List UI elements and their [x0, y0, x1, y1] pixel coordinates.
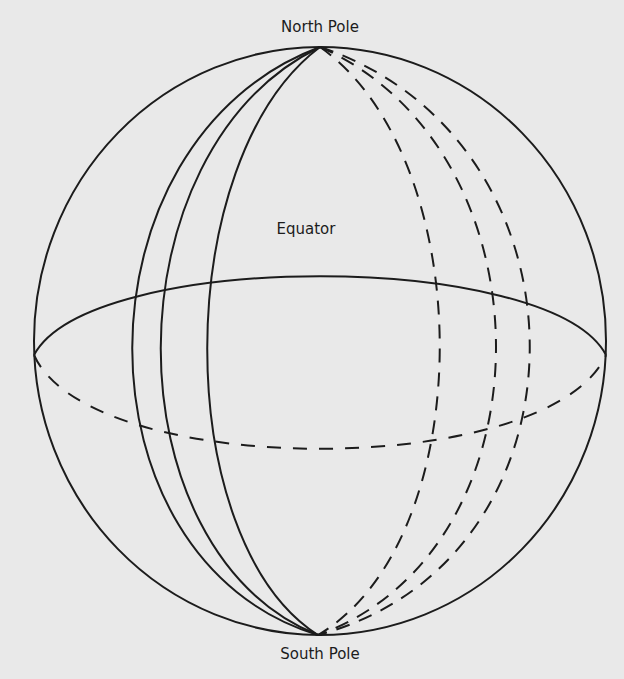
equator-back	[34, 355, 606, 449]
south-pole-label: South Pole	[280, 645, 359, 663]
equator-front	[34, 276, 606, 355]
meridian-solid-3	[207, 47, 320, 635]
meridian-dashed-3	[318, 47, 530, 635]
sphere-outline	[34, 47, 606, 635]
north-pole-label: North Pole	[281, 18, 359, 36]
meridian-dashed-2	[318, 47, 496, 635]
globe-drawing	[0, 0, 624, 679]
equator-label: Equator	[277, 220, 336, 238]
meridian-dashed-1	[318, 47, 440, 635]
meridian-solid-2	[161, 47, 320, 635]
globe-diagram: North Pole Equator South Pole	[0, 0, 624, 679]
